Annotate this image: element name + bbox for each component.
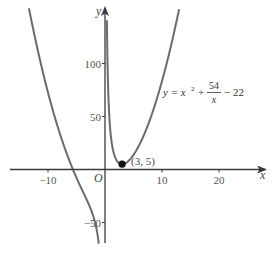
x-tick-label: −10 [39,174,57,186]
x-axis-label: x [259,168,266,182]
svg-text:54: 54 [209,80,219,91]
function-curve [29,8,179,243]
origin-label: O [94,171,103,185]
y-tick-label: −50 [84,217,102,229]
labels: yxO(3, 5)y = x2+54x− 22 [94,4,266,185]
y-tick-label: 100 [85,58,102,70]
svg-text:y = x: y = x [162,86,186,98]
svg-text:+: + [198,86,204,98]
minimum-point-label: (3, 5) [131,155,155,168]
axes [10,8,265,243]
svg-text:2: 2 [191,85,195,93]
axis-ticks: −101020−5050100 [39,58,225,229]
y-tick-label: 50 [90,111,102,123]
y-axis-label: y [95,4,102,18]
svg-text:x: x [211,94,217,105]
x-tick-label: 20 [214,174,226,186]
svg-text:− 22: − 22 [224,86,244,98]
equation-label: y = x2+54x− 22 [162,80,244,105]
x-tick-label: 10 [157,174,169,186]
curve-left-branch [29,8,99,243]
chart: −101020−5050100 yxO(3, 5)y = x2+54x− 22 [0,0,274,253]
minimum-point [119,161,126,168]
